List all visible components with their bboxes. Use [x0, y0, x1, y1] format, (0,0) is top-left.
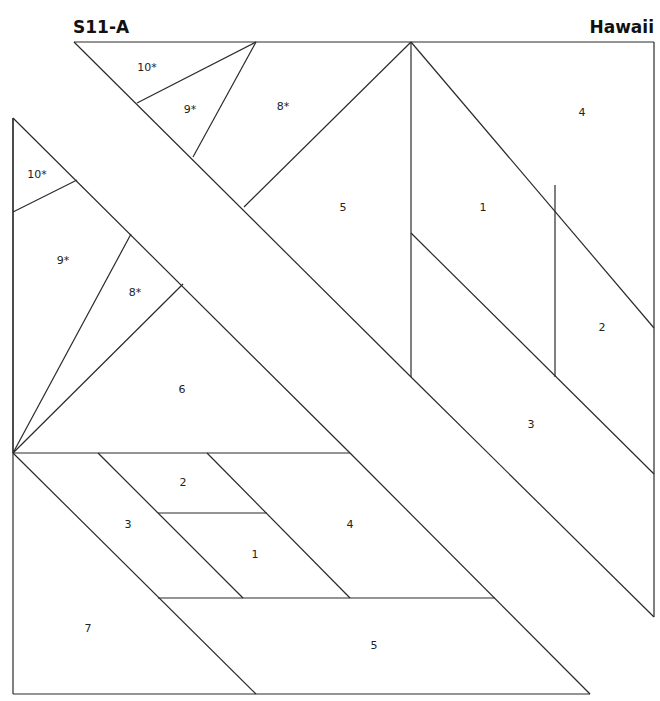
piece-label: 10*	[27, 168, 47, 181]
seam-2-1-4	[207, 453, 350, 598]
piece-label: 4	[347, 518, 354, 531]
right-diagonal-top	[411, 42, 654, 328]
piece-label: 5	[371, 639, 378, 652]
seam-10-9-left	[13, 180, 77, 212]
piece-label: 4	[579, 106, 586, 119]
piece-label: 8*	[277, 100, 290, 113]
upper-labels: 10* 9* 8* 5 1 4 2 3	[137, 61, 605, 431]
seam-8-5-top	[244, 42, 411, 207]
band-lower-diagonal-cont	[350, 453, 590, 694]
piece-label: 5	[340, 201, 347, 214]
seam-9-8-left	[13, 234, 131, 453]
seam-3-2-1	[98, 453, 243, 598]
piece-label: 6	[179, 383, 186, 396]
lower-section-lines	[13, 453, 590, 694]
piece-label: 2	[180, 476, 187, 489]
band-lines	[350, 377, 654, 694]
lower-labels: 2 3 1 4 7 5	[85, 476, 378, 652]
right-diagonal-mid	[411, 233, 654, 474]
piece-label: 8*	[129, 286, 142, 299]
piece-label: 9*	[57, 254, 70, 267]
left-labels: 10* 9* 8* 6	[27, 168, 185, 396]
piece-label: 3	[125, 518, 132, 531]
seam-8-6-left	[13, 284, 183, 453]
piece-label: 10*	[137, 61, 157, 74]
piece-label: 1	[480, 201, 487, 214]
seam-9-8-top	[193, 42, 256, 157]
foundation-pattern-diagram: 10* 9* 8* 5 1 4 2 3 10* 9* 8* 6 2 3 1 4 …	[0, 0, 660, 701]
band-upper-diagonal-cont	[411, 377, 654, 617]
piece-label: 7	[85, 622, 92, 635]
piece-label: 3	[528, 418, 535, 431]
left-section-lines	[13, 118, 350, 694]
piece-label: 2	[599, 321, 606, 334]
piece-label: 1	[252, 548, 259, 561]
piece-label: 9*	[184, 103, 197, 116]
